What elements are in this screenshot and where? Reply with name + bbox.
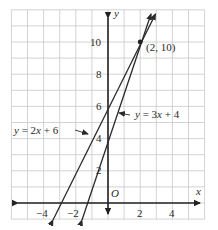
leader-arrow-2x-plus-6	[75, 130, 88, 134]
y-tick-6: 6	[96, 100, 102, 112]
y-tick-2: 2	[96, 164, 102, 176]
equation-label-3x-plus-4: y = 3x + 4	[134, 108, 180, 120]
x-tick-2: 2	[137, 207, 143, 219]
x-tick-4: 4	[169, 207, 175, 219]
origin-label: O	[111, 187, 119, 199]
x-tick-neg4: −4	[36, 207, 48, 219]
y-tick-4: 4	[96, 132, 102, 144]
equation-label-2x-plus-6: y = 2x + 6	[13, 124, 59, 136]
y-tick-10: 10	[90, 36, 102, 48]
y-tick-8: 8	[96, 68, 102, 80]
intersection-point-marker	[138, 40, 143, 45]
y-axis-label: y	[113, 7, 119, 19]
x-tick-neg2: −2	[67, 207, 79, 219]
coordinate-plane-chart: (2, 10) y x O 10 8 6 4 2 −4 −2 2 4 y = 3…	[0, 0, 218, 230]
x-axis-label: x	[195, 185, 201, 197]
intersection-point-label: (2, 10)	[146, 41, 176, 54]
